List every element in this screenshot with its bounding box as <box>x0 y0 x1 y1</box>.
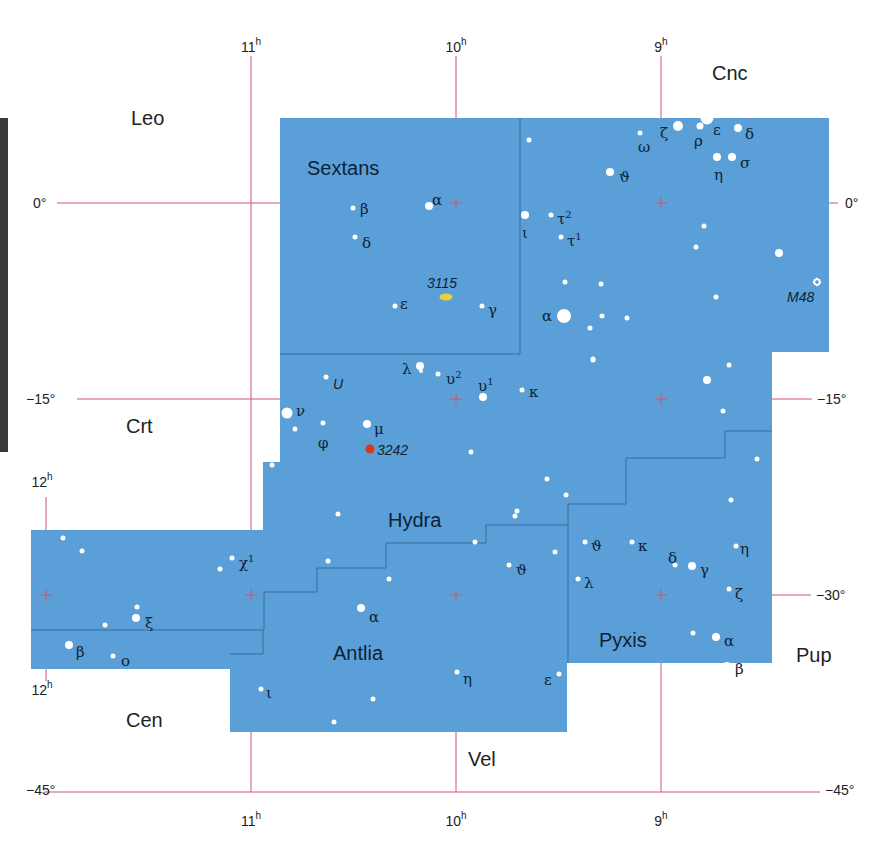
star-dot <box>713 153 721 161</box>
ra-axis-label: 12h <box>31 679 52 698</box>
star-dot <box>599 282 604 287</box>
star-dot <box>606 168 614 176</box>
star-label: U <box>333 376 344 392</box>
star-dot <box>65 641 73 649</box>
star-dot <box>473 540 478 545</box>
star-dot <box>549 213 554 218</box>
star-label: ϑ <box>619 168 630 186</box>
star-label: ζ <box>735 585 743 603</box>
star-dot <box>701 112 714 125</box>
neighbor-constellation-name: Leo <box>131 107 164 129</box>
dec-axis-label-left: −15° <box>26 391 55 407</box>
star-label: δ <box>362 234 371 252</box>
star-label-superscript: 1 <box>248 553 254 564</box>
star-label: ξ <box>145 614 153 632</box>
star-label: ι <box>266 684 272 702</box>
planetary-nebula-icon <box>366 445 375 454</box>
star-dot <box>507 563 512 568</box>
star-dot <box>600 314 605 319</box>
star-label: ω <box>638 138 650 156</box>
star-dot <box>697 123 704 130</box>
star-dot <box>80 549 85 554</box>
star-dot <box>630 540 635 545</box>
star-label: φ <box>318 434 329 452</box>
star-dot <box>591 358 596 363</box>
ra-axis-label: 9h <box>654 810 667 829</box>
ra-axis-label: 9h <box>654 36 667 55</box>
star-dot <box>419 369 423 373</box>
star-label: ρ <box>694 132 703 150</box>
star-dot <box>563 280 568 285</box>
dec-axis-label-right: −45° <box>825 782 854 798</box>
star-dot <box>371 697 376 702</box>
dec-axis-label-right: −30° <box>816 587 845 603</box>
star-dot <box>521 211 529 219</box>
star-dot <box>688 562 696 570</box>
star-label: γ <box>700 561 709 579</box>
star-dot <box>282 408 293 419</box>
star-dot <box>363 420 371 428</box>
star-dot <box>755 457 760 462</box>
constellation-name: Antlia <box>333 642 384 664</box>
star-label-superscript: 1 <box>575 231 581 242</box>
star-dot <box>357 604 365 612</box>
star-dot <box>336 512 341 517</box>
ra-axis-label: 10h <box>445 36 466 55</box>
star-label: ε <box>400 295 408 313</box>
dec-axis-label-left: −45° <box>26 782 55 798</box>
star-dot <box>728 153 736 161</box>
star-label: ε <box>544 671 552 689</box>
star-label: α <box>432 191 442 209</box>
dec-axis-label-right: 0° <box>845 195 858 211</box>
star-dot <box>480 304 485 309</box>
galaxy-icon <box>440 294 453 301</box>
star-dot <box>513 514 518 519</box>
star-label: σ <box>740 154 750 172</box>
star-dot <box>625 316 630 321</box>
constellation-name: Pyxis <box>599 629 647 651</box>
star-dot <box>727 363 732 368</box>
star-label: λ <box>584 574 594 592</box>
star-dot <box>703 376 711 384</box>
star-dot <box>557 309 571 323</box>
star-dot <box>702 224 707 229</box>
star-dot <box>326 559 331 564</box>
star-label: ζ <box>660 124 668 142</box>
star-label: κ <box>529 383 539 401</box>
star-dot <box>673 121 683 131</box>
star-dot <box>527 138 532 143</box>
star-dot <box>515 509 520 514</box>
star-label: ο <box>121 652 130 670</box>
star-dot <box>293 427 298 432</box>
star-dot <box>416 362 424 370</box>
star-dot <box>714 295 719 300</box>
star-label: κ <box>638 537 648 555</box>
star-label: ϑ <box>591 537 602 555</box>
star-dot <box>353 235 358 240</box>
star-dot <box>132 614 140 622</box>
neighbor-constellation-name: Crt <box>126 415 153 437</box>
star-dot <box>436 372 441 377</box>
star-dot <box>734 544 739 549</box>
star-dot <box>559 235 564 240</box>
neighbor-constellation-name: Vel <box>468 748 496 770</box>
star-dot <box>553 550 558 555</box>
star-dot <box>723 662 731 670</box>
star-dot <box>387 577 392 582</box>
star-label: μ <box>374 420 384 438</box>
star-dot <box>332 720 337 725</box>
star-label: γ <box>488 301 497 319</box>
star-dot <box>638 131 643 136</box>
ra-axis-label: 11h <box>241 810 261 829</box>
ra-axis-label: 10h <box>445 810 466 829</box>
star-dot <box>455 670 460 675</box>
star-dot <box>545 477 550 482</box>
star-label: δ <box>745 125 754 143</box>
star-dot <box>729 498 734 503</box>
star-dot <box>691 631 696 636</box>
star-dot <box>727 587 732 592</box>
star-dot <box>230 556 235 561</box>
star-label: λ <box>402 360 412 378</box>
star-dot <box>61 536 66 541</box>
star-dot <box>469 450 474 455</box>
